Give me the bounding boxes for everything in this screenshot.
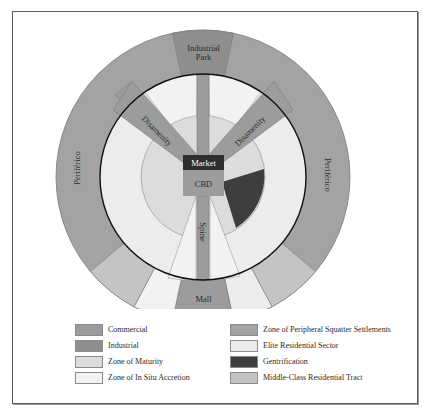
legend-label: Industrial <box>108 341 139 350</box>
legend-label: Gentrification <box>263 357 308 366</box>
in-situ-swatch <box>75 372 103 384</box>
legend-label: Middle-Class Residential Tract <box>263 373 363 382</box>
legend-item-industrial: Industrial <box>75 339 230 352</box>
gentrification-swatch <box>230 356 258 368</box>
legend-item-middle-class: Middle-Class Residential Tract <box>230 371 420 384</box>
periferico-right-label: Periférico <box>323 158 333 192</box>
commercial-swatch <box>75 324 103 336</box>
legend-label: Zone of Peripheral Squatter Settlements <box>263 325 391 334</box>
legend-label: Zone of Maturity <box>108 357 163 366</box>
legend-item-in-situ: Zone of In Situ Accretion <box>75 371 230 384</box>
legend-item-gentrification: Gentrification <box>230 355 420 368</box>
spine-top-bar <box>197 74 209 156</box>
mall-label: Mall <box>195 294 212 304</box>
legend-item-maturity: Zone of Maturity <box>75 355 230 368</box>
maturity-swatch <box>75 356 103 368</box>
legend: Commercial Zone of Peripheral Squatter S… <box>75 323 420 384</box>
legend-label: Zone of In Situ Accretion <box>108 373 190 382</box>
middle-class-swatch <box>230 372 258 384</box>
legend-item-squatter: Zone of Peripheral Squatter Settlements <box>230 323 420 336</box>
industrial-swatch <box>75 340 103 352</box>
legend-item-commercial: Commercial <box>75 323 230 336</box>
industrial-park-label-2: Park <box>196 52 212 62</box>
cbd-label: CBD <box>195 179 212 189</box>
market-label: Market <box>191 158 216 168</box>
elite-swatch <box>230 340 258 352</box>
legend-label: Commercial <box>108 325 148 334</box>
spine-label: Spine <box>198 222 208 242</box>
periferico-left-label: Periférico <box>72 151 82 185</box>
legend-item-elite: Elite Residential Sector <box>230 339 420 352</box>
legend-label: Elite Residential Sector <box>263 341 339 350</box>
squatter-swatch <box>230 324 258 336</box>
